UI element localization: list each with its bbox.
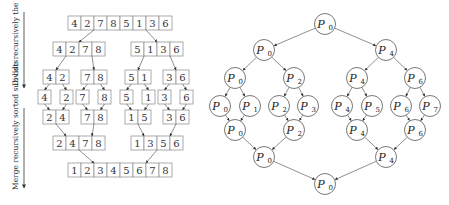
- cell-value: 2: [56, 138, 62, 149]
- cell-value: 5: [123, 92, 129, 103]
- node-label: P: [406, 124, 415, 137]
- connector-arrow: [56, 56, 66, 70]
- tree-edge: [285, 115, 289, 121]
- array-box: 4: [38, 90, 51, 104]
- array-box: 78: [81, 110, 107, 124]
- process-node: P1: [240, 96, 261, 117]
- connector-arrow: [146, 30, 157, 42]
- cell-value: 1: [134, 138, 140, 149]
- cell-value: 1: [71, 165, 77, 176]
- process-node: P6: [405, 120, 426, 141]
- cell-value: 4: [59, 112, 65, 123]
- node-subscript: 6: [419, 130, 424, 138]
- node-subscript: 4: [346, 106, 351, 114]
- connector-arrow: [145, 84, 149, 90]
- array-box: 5136: [131, 42, 183, 56]
- process-node: P0: [315, 14, 336, 35]
- cell-value: 8: [101, 92, 107, 103]
- cell-value: 6: [136, 165, 142, 176]
- array-box: 1356: [131, 136, 183, 150]
- cell-value: 7: [82, 138, 88, 149]
- merge-sort-diagram: 4278513642785136427851364278513624781536…: [38, 16, 193, 177]
- cell-value: 4: [46, 72, 52, 83]
- array-box: 42785136: [68, 16, 172, 30]
- node-label: P: [316, 18, 325, 31]
- cell-value: 8: [162, 165, 168, 176]
- cell-value: 7: [84, 72, 90, 83]
- cell-value: 3: [160, 44, 166, 55]
- connector-arrow: [45, 84, 50, 90]
- process-node: P2: [269, 96, 290, 117]
- cell-value: 6: [183, 92, 189, 103]
- node-label: P: [285, 124, 294, 137]
- tree-edge: [363, 115, 367, 121]
- connector-arrow: [56, 124, 66, 136]
- cell-value: 1: [145, 92, 151, 103]
- node-label: P: [348, 72, 357, 85]
- tree-edge: [243, 57, 257, 70]
- node-subscript: 4: [361, 130, 366, 138]
- cell-value: 5: [134, 44, 140, 55]
- array-box: 15: [125, 110, 151, 124]
- node-subscript: 0: [268, 157, 272, 165]
- cell-value: 4: [69, 138, 75, 149]
- node-label: P: [270, 100, 279, 113]
- cell-value: 7: [82, 44, 88, 55]
- tree-edge: [226, 115, 230, 121]
- cell-value: 5: [141, 112, 147, 123]
- connector-arrow: [183, 84, 187, 90]
- tree-edge: [272, 57, 286, 70]
- array-box: 4278: [53, 42, 105, 56]
- process-node: P5: [362, 96, 383, 117]
- process-node: P0: [225, 68, 246, 89]
- node-label: P: [226, 124, 235, 137]
- process-node: P4: [347, 120, 368, 141]
- node-label: P: [377, 44, 386, 57]
- node-label: P: [316, 178, 325, 191]
- array-box: 1: [142, 90, 155, 104]
- process-node: P4: [376, 147, 397, 168]
- connector-arrow: [101, 84, 105, 90]
- tree-edge: [274, 161, 315, 179]
- node-subscript: 4: [390, 50, 395, 58]
- cell-value: 7: [149, 165, 155, 176]
- cell-value: 7: [97, 18, 103, 29]
- array-box: 2478: [53, 136, 105, 150]
- process-node: P2: [284, 120, 305, 141]
- node-label: P: [241, 100, 250, 113]
- node-subscript: 2: [298, 78, 302, 86]
- connector-arrow: [170, 124, 176, 136]
- side-labels: Divide recursively the data Merge recurs…: [11, 0, 24, 190]
- node-label: P: [406, 72, 415, 85]
- process-node: P3: [298, 96, 319, 117]
- cell-value: 4: [56, 44, 62, 55]
- cell-value: 6: [173, 44, 179, 55]
- merge-label: Merge recursively sorted sub-lists: [11, 60, 20, 190]
- cell-value: 4: [71, 18, 77, 29]
- array-box: 78: [81, 70, 107, 84]
- node-subscript: 3: [312, 106, 316, 114]
- cell-value: 6: [162, 18, 168, 29]
- node-subscript: 0: [224, 106, 228, 114]
- connector-arrow: [45, 104, 50, 110]
- node-label: P: [333, 100, 342, 113]
- array-box: 3: [158, 90, 171, 104]
- diagram-canvas: 4278513642785136427851364278513624781536…: [0, 0, 449, 205]
- array-box: 5: [120, 90, 133, 104]
- node-subscript: 4: [361, 78, 366, 86]
- tree-edge: [406, 115, 409, 120]
- process-node: P0: [210, 96, 231, 117]
- cell-value: 3: [161, 92, 167, 103]
- connector-arrow: [138, 56, 144, 70]
- connector-arrow: [145, 104, 149, 110]
- node-label: P: [226, 72, 235, 85]
- tree-edge: [406, 87, 410, 96]
- cell-value: 1: [147, 44, 153, 55]
- cell-value: 4: [110, 165, 116, 176]
- node-label: P: [377, 151, 386, 164]
- tree-edge: [243, 137, 256, 149]
- node-label: P: [255, 44, 264, 57]
- cell-value: 8: [97, 112, 103, 123]
- tree-edge: [300, 115, 303, 120]
- array-box: 51: [125, 70, 151, 84]
